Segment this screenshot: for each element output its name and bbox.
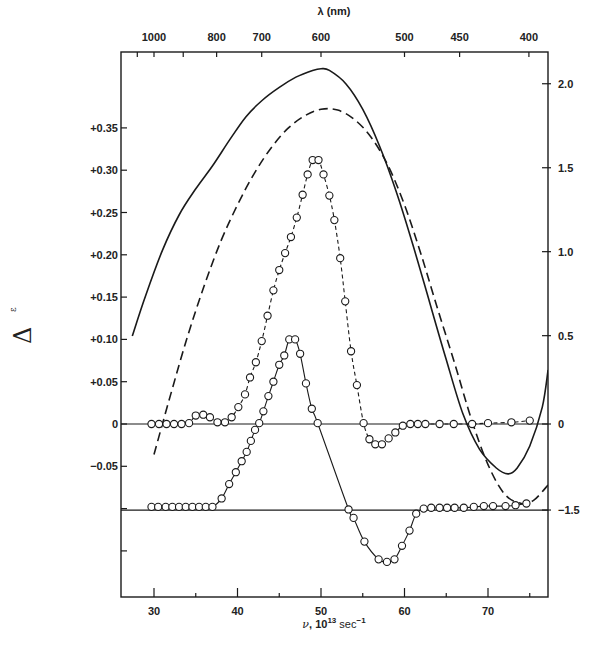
right-tick-label: −1.5 xyxy=(558,504,580,516)
x-tick-label: 60 xyxy=(398,605,410,617)
data-point-marker xyxy=(169,503,176,510)
left-tick-label: 0 xyxy=(112,418,118,430)
data-point-marker xyxy=(252,359,259,366)
data-point-marker xyxy=(331,217,338,224)
dashed-broad-band-line xyxy=(154,109,548,504)
top-tick-label: 400 xyxy=(520,31,538,43)
data-point-marker xyxy=(450,420,457,427)
right-tick-label: 1.0 xyxy=(558,246,573,258)
plot-border xyxy=(121,52,548,597)
data-point-marker xyxy=(209,503,216,510)
data-point-marker xyxy=(256,420,263,427)
right-tick-label: 1.5 xyxy=(558,162,573,174)
data-point-marker xyxy=(251,426,258,433)
data-point-marker xyxy=(469,420,476,427)
data-point-marker xyxy=(347,348,354,355)
x-axis-ticks: 3040506070 xyxy=(148,588,530,617)
dashed-broad-band xyxy=(154,109,548,504)
x-axis-title-sup2: −1 xyxy=(357,616,367,625)
left-tick-label: −0.05 xyxy=(90,460,118,472)
data-point-marker xyxy=(214,419,221,426)
data-point-marker xyxy=(185,420,192,427)
right-tick-label: 2.0 xyxy=(558,78,573,90)
data-point-marker xyxy=(302,380,309,387)
data-point-marker xyxy=(192,412,199,419)
data-point-marker xyxy=(270,287,277,294)
data-point-marker xyxy=(155,503,162,510)
data-point-marker xyxy=(422,420,429,427)
data-point-marker xyxy=(353,381,360,388)
left-tick-label: +0.25 xyxy=(90,207,118,219)
top-tick-label: 1000 xyxy=(142,31,166,43)
data-point-marker xyxy=(241,391,248,398)
data-point-marker xyxy=(148,503,155,510)
dashed-circles-band-line xyxy=(152,158,530,445)
chart-canvas: 3040506070 1000800700600500450400 +0.35+… xyxy=(0,0,589,645)
data-point-marker xyxy=(246,374,253,381)
data-point-marker xyxy=(443,504,450,511)
data-point-marker xyxy=(228,414,235,421)
data-point-marker xyxy=(428,504,435,511)
data-point-marker xyxy=(360,420,367,427)
data-point-marker xyxy=(202,503,209,510)
data-point-marker xyxy=(484,420,491,427)
data-point-marker xyxy=(293,214,300,221)
data-point-marker xyxy=(221,419,228,426)
x-axis-title-text: , 10 xyxy=(309,618,327,630)
data-point-marker xyxy=(281,352,288,359)
x-tick-label: 40 xyxy=(231,605,243,617)
left-tick-label: +0.20 xyxy=(90,249,118,261)
right-tick-label: 0 xyxy=(558,418,564,430)
data-point-marker xyxy=(320,171,327,178)
data-point-marker xyxy=(480,502,487,509)
data-point-marker xyxy=(392,429,399,436)
data-point-marker xyxy=(526,417,533,424)
data-point-marker xyxy=(414,420,421,427)
data-point-marker xyxy=(281,250,288,257)
data-point-marker xyxy=(407,420,414,427)
data-point-marker xyxy=(372,441,379,448)
plot-frame xyxy=(121,52,548,597)
data-point-marker xyxy=(206,414,213,421)
data-point-marker xyxy=(406,527,413,534)
data-point-marker xyxy=(523,500,530,507)
data-point-marker xyxy=(182,503,189,510)
data-point-marker xyxy=(265,392,272,399)
data-point-marker xyxy=(398,542,405,549)
baselines xyxy=(121,424,548,510)
data-point-marker xyxy=(502,502,509,509)
data-point-marker xyxy=(315,156,322,163)
data-point-marker xyxy=(163,420,170,427)
solid-circles-band xyxy=(148,336,530,566)
data-point-marker xyxy=(235,403,242,410)
data-point-marker xyxy=(155,420,162,427)
top-tick-label: 450 xyxy=(450,31,468,43)
data-point-marker xyxy=(258,337,265,344)
data-point-marker xyxy=(391,556,398,563)
data-point-marker xyxy=(345,506,352,513)
data-point-marker xyxy=(264,312,271,319)
left-tick-label: +0.15 xyxy=(90,291,118,303)
data-point-marker xyxy=(304,171,311,178)
data-point-marker xyxy=(232,469,239,476)
top-tick-label: 500 xyxy=(395,31,413,43)
data-point-marker xyxy=(470,503,477,510)
epsilon-symbol: ε xyxy=(8,307,18,312)
x-tick-label: 50 xyxy=(315,605,327,617)
x-tick-label: 30 xyxy=(148,605,160,617)
data-point-marker xyxy=(218,495,225,502)
left-tick-label: +0.05 xyxy=(90,376,118,388)
data-point-marker xyxy=(200,411,207,418)
data-point-marker xyxy=(308,405,315,412)
data-point-marker xyxy=(460,504,467,511)
data-point-marker xyxy=(413,510,420,517)
data-point-marker xyxy=(366,436,373,443)
solid-circles-band-line xyxy=(152,337,527,561)
data-point-marker xyxy=(195,503,202,510)
data-point-marker xyxy=(287,233,294,240)
data-point-marker xyxy=(342,298,349,305)
data-point-marker xyxy=(420,505,427,512)
data-point-marker xyxy=(512,502,519,509)
data-point-marker xyxy=(292,336,299,343)
data-point-marker xyxy=(378,441,385,448)
